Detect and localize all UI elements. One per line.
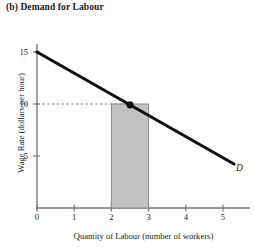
x-tick-label-5: 5 — [215, 212, 231, 222]
labour-cost-rectangle — [111, 104, 148, 208]
x-tick-label-4: 4 — [178, 212, 194, 222]
x-tick-label-2: 2 — [103, 212, 119, 222]
x-tick-label-0: 0 — [29, 212, 45, 222]
x-axis-title: Quantity of Labour (number of workers) — [37, 231, 250, 241]
figure-panel: (b) Demand for Labour 15 1 — [0, 0, 255, 249]
demand-curve-label: D — [236, 163, 243, 173]
x-tick-label-1: 1 — [66, 212, 82, 222]
x-tick-label-3: 3 — [141, 212, 157, 222]
y-axis-title: Wage Rate (dollars per hour) — [16, 48, 26, 198]
equilibrium-point-marker — [126, 101, 133, 108]
